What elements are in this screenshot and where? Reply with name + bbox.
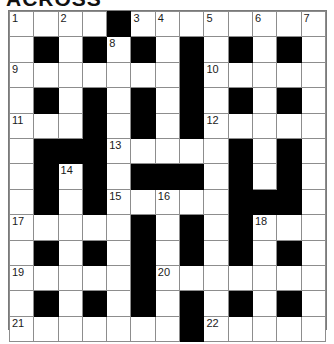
grid-open-cell[interactable] [204,88,228,113]
grid-open-cell[interactable]: 2 [58,12,82,37]
grid-open-cell[interactable]: 10 [204,62,228,87]
grid-open-cell[interactable]: 14 [58,164,82,189]
grid-open-cell[interactable] [155,113,179,138]
grid-open-cell[interactable]: 11 [10,113,34,138]
grid-open-cell[interactable]: 15 [107,189,131,214]
grid-open-cell[interactable] [155,37,179,62]
grid-open-cell[interactable] [155,88,179,113]
grid-open-cell[interactable] [228,62,252,87]
grid-open-cell[interactable] [301,291,325,316]
grid-open-cell[interactable] [204,291,228,316]
grid-open-cell[interactable] [301,62,325,87]
grid-open-cell[interactable]: 16 [155,189,179,214]
grid-open-cell[interactable] [10,240,34,265]
grid-open-cell[interactable] [301,113,325,138]
grid-open-cell[interactable]: 18 [252,215,276,240]
grid-open-cell[interactable] [10,164,34,189]
grid-open-cell[interactable]: 20 [155,265,179,290]
grid-open-cell[interactable] [180,265,204,290]
grid-open-cell[interactable] [107,88,131,113]
grid-open-cell[interactable] [301,88,325,113]
grid-open-cell[interactable] [10,88,34,113]
grid-open-cell[interactable] [58,215,82,240]
grid-open-cell[interactable] [58,291,82,316]
grid-open-cell[interactable] [301,215,325,240]
grid-open-cell[interactable] [277,113,301,138]
grid-open-cell[interactable] [155,316,179,341]
grid-open-cell[interactable] [228,265,252,290]
grid-open-cell[interactable] [252,113,276,138]
grid-open-cell[interactable] [301,138,325,163]
grid-open-cell[interactable] [34,62,58,87]
grid-open-cell[interactable] [228,12,252,37]
grid-open-cell[interactable] [107,113,131,138]
grid-open-cell[interactable]: 17 [10,215,34,240]
grid-open-cell[interactable] [82,316,106,341]
grid-open-cell[interactable] [252,240,276,265]
grid-open-cell[interactable] [34,215,58,240]
grid-open-cell[interactable] [277,265,301,290]
grid-open-cell[interactable] [155,138,179,163]
grid-open-cell[interactable] [277,215,301,240]
grid-open-cell[interactable] [301,164,325,189]
grid-open-cell[interactable]: 8 [107,37,131,62]
grid-open-cell[interactable]: 13 [107,138,131,163]
grid-open-cell[interactable] [204,164,228,189]
grid-open-cell[interactable] [180,189,204,214]
grid-open-cell[interactable]: 6 [252,12,276,37]
grid-open-cell[interactable] [301,265,325,290]
crossword-grid[interactable]: 12345678910111213141516171819202122 [8,10,327,330]
grid-open-cell[interactable] [58,316,82,341]
grid-open-cell[interactable] [82,12,106,37]
grid-open-cell[interactable] [107,291,131,316]
grid-open-cell[interactable] [204,37,228,62]
grid-open-cell[interactable] [82,265,106,290]
grid-open-cell[interactable]: 7 [301,12,325,37]
grid-open-cell[interactable] [58,240,82,265]
grid-open-cell[interactable]: 3 [131,12,155,37]
grid-open-cell[interactable] [301,37,325,62]
grid-open-cell[interactable] [204,138,228,163]
grid-open-cell[interactable] [131,189,155,214]
grid-open-cell[interactable] [252,291,276,316]
grid-open-cell[interactable] [34,113,58,138]
grid-open-cell[interactable]: 12 [204,113,228,138]
grid-open-cell[interactable] [155,240,179,265]
grid-open-cell[interactable] [82,215,106,240]
grid-open-cell[interactable] [10,138,34,163]
grid-open-cell[interactable] [131,138,155,163]
grid-open-cell[interactable] [58,37,82,62]
grid-open-cell[interactable] [204,265,228,290]
grid-open-cell[interactable] [107,164,131,189]
grid-open-cell[interactable] [155,215,179,240]
grid-open-cell[interactable] [252,62,276,87]
grid-open-cell[interactable] [252,265,276,290]
grid-open-cell[interactable] [180,138,204,163]
grid-open-cell[interactable] [204,215,228,240]
grid-open-cell[interactable]: 1 [10,12,34,37]
grid-open-cell[interactable] [252,88,276,113]
grid-open-cell[interactable] [82,62,106,87]
grid-open-cell[interactable]: 9 [10,62,34,87]
grid-open-cell[interactable]: 4 [155,12,179,37]
grid-open-cell[interactable] [277,12,301,37]
grid-open-cell[interactable]: 19 [10,265,34,290]
grid-open-cell[interactable] [58,88,82,113]
grid-open-cell[interactable] [107,62,131,87]
grid-open-cell[interactable] [34,265,58,290]
grid-open-cell[interactable] [180,12,204,37]
grid-open-cell[interactable] [10,189,34,214]
grid-open-cell[interactable] [155,62,179,87]
grid-open-cell[interactable] [58,113,82,138]
grid-open-cell[interactable]: 22 [204,316,228,341]
grid-open-cell[interactable] [252,37,276,62]
grid-open-cell[interactable] [301,316,325,341]
grid-open-cell[interactable] [131,316,155,341]
grid-open-cell[interactable] [252,164,276,189]
grid-open-cell[interactable] [252,316,276,341]
grid-open-cell[interactable] [107,240,131,265]
grid-open-cell[interactable] [58,62,82,87]
grid-open-cell[interactable] [228,316,252,341]
grid-open-cell[interactable] [58,265,82,290]
grid-open-cell[interactable] [10,291,34,316]
